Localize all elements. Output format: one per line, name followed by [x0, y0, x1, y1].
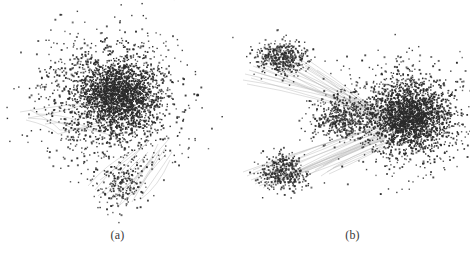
network-graph-b	[235, 0, 470, 225]
network-graph-a	[0, 0, 235, 225]
figure-container: (a) (b)	[0, 0, 470, 258]
panel-a-caption: (a)	[0, 228, 235, 242]
panel-b-caption: (b)	[235, 228, 470, 242]
panel-b: (b)	[235, 0, 470, 258]
panel-a: (a)	[0, 0, 235, 258]
